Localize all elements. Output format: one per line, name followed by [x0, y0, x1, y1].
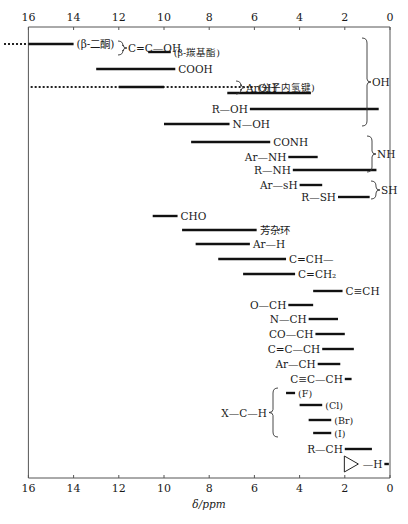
range-bar-row: Ar—CH [274, 358, 340, 370]
bar-label: (I) [334, 428, 345, 439]
bar-label: C=CH₂ [298, 268, 336, 280]
bar-label: O—CH [250, 299, 286, 311]
nmr-chemical-shift-chart: 16161414121210108866442200 (β-二酮)(β-羰基酯)… [0, 0, 408, 524]
bar-label: (F) [298, 388, 312, 399]
bar-label: C=CH— [289, 253, 334, 265]
bottom-tick-label: 8 [206, 482, 213, 495]
range-bar-row: CONH [191, 136, 308, 148]
range-bar-row: R—OH [212, 103, 379, 115]
range-bar-row: COOH [96, 63, 213, 75]
bar-label: 芳杂环 [260, 224, 290, 236]
bar-label: R—NH [254, 164, 291, 176]
top-tick-label: 6 [251, 11, 258, 24]
bar-label: Ar—CH [274, 358, 315, 370]
bottom-tick-label: 2 [341, 482, 348, 495]
bar-label: (β-二酮) [77, 38, 115, 50]
bar-label: N—OH [233, 118, 270, 130]
bar-label: N—CH [270, 313, 307, 325]
range-bar-row: O—CH [250, 299, 313, 311]
top-tick-label: 2 [341, 11, 348, 24]
range-bar-row: (β-二酮) [4, 38, 114, 50]
bar-label: CO—CH [269, 328, 313, 340]
bottom-tick-label: 12 [112, 482, 126, 495]
range-bar-row: C=C—CH [268, 343, 354, 355]
bar-label: (Cl) [325, 400, 343, 411]
group-sh-label: SH [381, 184, 397, 196]
bar-label: Ar—sH [259, 179, 298, 191]
group-xch-label: X—C—H [221, 407, 267, 419]
bottom-tick-label: 16 [21, 482, 35, 495]
range-bar-row: (Cl) [300, 400, 343, 411]
bar-label: R—OH [212, 103, 248, 115]
range-bar-row: —H [344, 456, 389, 472]
cyclopropane-icon [344, 456, 358, 472]
range-bar-row: Ar—H [196, 238, 286, 250]
top-tick-label: 16 [21, 11, 35, 24]
chart-canvas: 16161414121210108866442200 (β-二酮)(β-羰基酯)… [0, 0, 408, 524]
bar-label: CONH [273, 136, 308, 148]
top-tick-label: 8 [206, 11, 213, 24]
group-nh-brace-icon [367, 136, 376, 172]
bottom-tick-label: 6 [251, 482, 258, 495]
group-oh-brace-icon [362, 38, 371, 126]
bottom-tick-label: 14 [67, 482, 81, 495]
x-axis-title: δ/ppm [192, 498, 225, 510]
group-sh-brace-icon [371, 181, 380, 199]
bar-label: CHO [181, 210, 207, 222]
bar-label: Ar—H [252, 238, 285, 250]
top-tick-label: 14 [67, 11, 81, 24]
top-tick-label: 0 [387, 11, 394, 24]
range-bar-row: Ar—NH [244, 151, 318, 163]
range-bar-row: R—NH [254, 164, 376, 176]
range-bar-row: CHO [153, 210, 207, 222]
range-bar-row: (I) [313, 428, 345, 439]
bar-label: Ar—NH [244, 151, 286, 163]
cyclopropane-h-label: —H [363, 458, 383, 470]
group-cc-oh-label: C=C—OH [128, 42, 181, 54]
bar-label: COOH [178, 63, 212, 75]
range-bar-row: (Br) [309, 415, 354, 426]
top-tick-label: 4 [296, 11, 303, 24]
group-nh-label: NH [377, 148, 395, 160]
range-bar-row: C≡C—CH [290, 373, 351, 385]
range-bar-row: N—CH [270, 313, 338, 325]
bar-label: C≡CH [346, 285, 380, 297]
bottom-tick-label: 10 [157, 482, 171, 495]
group-xch-brace-icon [269, 388, 278, 437]
bar-label: (Br) [334, 415, 353, 426]
range-bar-row: C≡CH [313, 285, 379, 297]
bottom-tick-label: 0 [387, 482, 394, 495]
bar-label: R—CH [307, 443, 343, 455]
bar-label: C=C—CH [268, 343, 321, 355]
bottom-tick-label: 4 [296, 482, 303, 495]
range-bar-row: Ar—sH [259, 179, 322, 191]
group-oh-label: OH [372, 76, 390, 88]
bar-label: C≡C—CH [290, 373, 343, 385]
range-bar-row: R—SH [301, 191, 369, 203]
top-tick-label: 12 [112, 11, 126, 24]
range-bar-row: (F) [286, 388, 312, 399]
group-aroh-label: ArOH [245, 82, 276, 94]
range-bar-row: C=CH₂ [243, 268, 336, 280]
bar-label: R—SH [301, 191, 336, 203]
top-tick-label: 10 [157, 11, 171, 24]
group-cc-oh-brace-icon [118, 41, 127, 55]
range-bar-row: R—CH [307, 443, 372, 455]
range-bar-row: N—OH [164, 118, 270, 130]
range-bar-row: CO—CH [269, 328, 345, 340]
range-bar-row: 芳杂环 [182, 224, 290, 236]
range-bar-row: C=CH— [218, 253, 334, 265]
range-bars: (β-二酮)(β-羰基酯)COOH(分子内氢键)R—OHN—OHCONHAr—N… [4, 38, 389, 472]
